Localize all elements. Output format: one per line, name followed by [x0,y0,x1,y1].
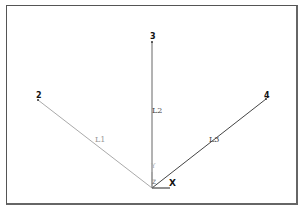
line-label-l2: L2 [152,106,162,115]
line-l1[interactable] [38,100,152,188]
line-label-l3: L3 [209,135,219,144]
truss-diagram: 2 3 4 L1 L2 L3 X Y Z [0,0,304,212]
node-label-3: 3 [150,32,156,41]
node-point-3[interactable] [151,41,153,43]
node-label-4: 4 [264,91,270,100]
y-axis-label: Y [150,162,156,170]
z-axis-label: Z [152,178,156,185]
node-label-2: 2 [36,91,42,100]
line-label-l1: L1 [95,135,105,144]
x-axis-label: X [169,178,176,188]
